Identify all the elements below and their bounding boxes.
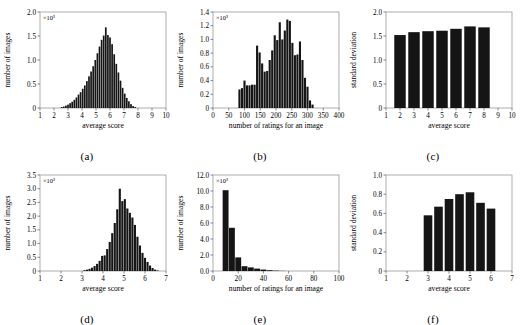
x-tick-label-e-0: 0 <box>211 275 215 283</box>
bar-d-17 <box>126 208 128 271</box>
bar-b-22 <box>294 55 296 108</box>
bar-d-29 <box>157 270 159 271</box>
bar-b-9 <box>261 63 263 108</box>
x-tick-label-c-2: 3 <box>412 112 416 120</box>
bar-d-26 <box>149 266 151 271</box>
bar-d-10 <box>109 242 111 271</box>
y-axis-label-f: standard deviation <box>349 195 358 251</box>
bar-a-20 <box>103 36 105 108</box>
y-tick-label-c-1: 0.5 <box>373 81 382 89</box>
bar-c-5 <box>464 26 475 108</box>
bar-a-26 <box>115 64 117 108</box>
bar-a-15 <box>92 66 94 108</box>
bar-d-27 <box>152 268 154 271</box>
y-axis-label-a: number of images <box>3 33 12 88</box>
bar-e-3 <box>242 266 248 271</box>
bar-b-27 <box>306 87 308 108</box>
x-tick-label-f-6: 7 <box>510 275 514 283</box>
chart-d: ×10³00.51.01.52.02.53.03.51234567average… <box>0 163 174 301</box>
bar-f-6 <box>487 209 496 271</box>
y-axis-exponent-d: ×10³ <box>43 177 55 184</box>
x-axis-label-a: average score <box>82 121 124 130</box>
x-tick-label-d-0: 1 <box>38 275 42 283</box>
x-tick-label-a-2: 3 <box>66 112 70 120</box>
y-tick-label-b-1: 0.2 <box>200 91 209 99</box>
bar-a-3 <box>67 105 69 108</box>
bar-f-3 <box>455 194 464 271</box>
bar-a-19 <box>101 40 103 108</box>
bar-f-2 <box>445 199 454 271</box>
x-tick-label-b-4: 200 <box>271 112 282 120</box>
y-tick-label-b-7: 1.4 <box>200 9 209 17</box>
bar-b-21 <box>291 43 293 108</box>
x-tick-label-a-0: 1 <box>38 112 42 120</box>
bar-b-26 <box>304 78 306 108</box>
bar-b-2 <box>243 81 245 108</box>
bar-d-19 <box>131 218 133 271</box>
bar-a-12 <box>86 81 88 108</box>
bar-d-21 <box>136 237 138 271</box>
bar-b-0 <box>238 89 240 108</box>
y-axis-label-b: number of images <box>176 33 185 88</box>
bar-a-5 <box>71 102 73 108</box>
y-tick-label-e-6: 12.0 <box>196 172 209 180</box>
bar-b-18 <box>284 31 286 108</box>
x-tick-label-b-8: 400 <box>334 112 345 120</box>
bar-d-6 <box>99 261 101 271</box>
y-tick-label-d-7: 3.5 <box>27 172 36 180</box>
figure-container: ×10³00.51.01.52.012345678910average scor… <box>0 0 521 325</box>
bar-b-23 <box>296 55 298 108</box>
bar-d-23 <box>141 253 143 271</box>
x-tick-label-d-3: 4 <box>101 275 105 283</box>
y-axis-exponent-a: ×10³ <box>43 14 55 21</box>
chart-e: ×10³0.02.04.06.08.010.012.0020406080100n… <box>173 163 347 301</box>
x-tick-label-b-0: 0 <box>211 112 215 120</box>
plot-frame <box>213 12 339 108</box>
y-tick-label-e-5: 10.0 <box>196 188 209 196</box>
bar-b-5 <box>251 85 253 108</box>
x-tick-label-a-8: 9 <box>150 112 154 120</box>
bar-d-1 <box>86 270 88 271</box>
subplot-caption-e: (e) <box>173 313 347 325</box>
x-tick-label-b-7: 350 <box>318 112 329 120</box>
bar-d-12 <box>114 223 116 271</box>
x-tick-label-c-3: 4 <box>426 112 430 120</box>
y-axis-exponent-b: ×10³ <box>216 14 228 21</box>
x-axis-label-d: average score <box>82 284 124 293</box>
bar-c-2 <box>422 31 433 108</box>
x-tick-label-b-5: 250 <box>286 112 297 120</box>
bar-a-34 <box>132 106 134 108</box>
x-tick-label-f-5: 6 <box>489 275 493 283</box>
x-tick-label-f-0: 1 <box>384 275 388 283</box>
bar-d-9 <box>106 249 108 271</box>
bar-b-25 <box>301 60 303 108</box>
y-tick-label-c-2: 1.0 <box>373 57 382 65</box>
bar-b-13 <box>271 50 273 108</box>
x-tick-label-f-3: 4 <box>447 275 451 283</box>
bar-d-0 <box>83 270 85 271</box>
x-tick-label-f-2: 3 <box>426 275 430 283</box>
y-tick-label-f-4: 0.8 <box>373 191 382 199</box>
bar-d-20 <box>134 225 136 271</box>
bar-b-1 <box>241 88 243 108</box>
subplot-e: ×10³0.02.04.06.08.010.012.0020406080100n… <box>173 163 347 325</box>
x-tick-label-c-6: 7 <box>468 112 472 120</box>
y-tick-label-d-2: 1.0 <box>27 240 36 248</box>
bar-e-4 <box>248 267 254 271</box>
x-tick-label-e-2: 40 <box>260 275 268 283</box>
bar-b-14 <box>274 35 276 108</box>
y-tick-label-f-1: 0.2 <box>373 248 382 256</box>
bar-c-0 <box>394 35 405 108</box>
bar-c-4 <box>450 29 461 108</box>
bar-d-11 <box>111 233 113 271</box>
x-tick-label-d-6: 7 <box>164 275 168 283</box>
bar-d-7 <box>101 256 103 271</box>
x-tick-label-a-9: 10 <box>162 112 170 120</box>
bar-a-32 <box>128 101 130 108</box>
y-tick-label-a-0: 0 <box>32 105 36 113</box>
bar-b-3 <box>246 85 248 108</box>
y-axis-label-d: number of images <box>3 196 12 251</box>
x-tick-label-b-6: 300 <box>302 112 313 120</box>
x-axis-label-e: number of ratings for an image <box>229 284 324 293</box>
bar-f-0 <box>424 215 433 271</box>
